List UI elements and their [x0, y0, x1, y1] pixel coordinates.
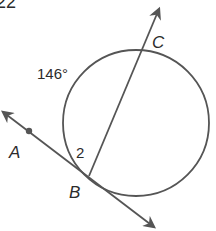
point-a-label: A [8, 143, 20, 162]
tangent-line-ab [3, 112, 154, 227]
point-c-label: C [152, 33, 165, 52]
problem-number-fragment: 22 [0, 0, 16, 12]
arc-measure-label: 146° [37, 65, 68, 82]
point-b-label: B [69, 183, 80, 202]
secant-ray-bc [89, 9, 159, 176]
circle-tangent-secant-diagram: 22 146° C A 2 B [0, 0, 216, 231]
angle-2-label: 2 [76, 144, 84, 161]
point-a-dot [26, 128, 32, 134]
